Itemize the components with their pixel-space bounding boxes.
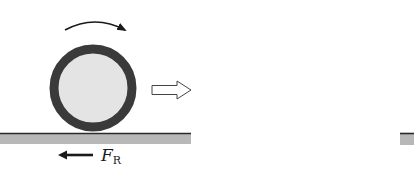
friction-force-label: FR — [101, 147, 121, 166]
force-subscript: R — [113, 154, 121, 167]
ground-surface-fragment — [400, 133, 414, 145]
friction-force-arrow-icon — [58, 151, 93, 160]
diagram-canvas — [0, 0, 414, 172]
motion-direction-arrow-icon — [152, 81, 191, 99]
force-symbol: F — [101, 145, 113, 165]
wheel — [54, 49, 132, 127]
ground-surface — [0, 133, 191, 144]
rotation-arrow-icon — [65, 22, 125, 30]
